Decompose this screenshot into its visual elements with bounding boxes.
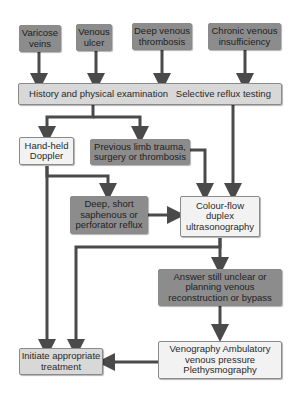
label: Hand-held Doppler: [20, 141, 73, 162]
box-varicose-veins: Varicose veins: [19, 25, 61, 52]
label: Venous ulcer: [77, 27, 111, 48]
box-tests: Venography Ambulatory venous pressure Pl…: [158, 341, 282, 379]
box-duplex: Colour-flow duplex ultrasonography: [180, 196, 260, 237]
box-dvt: Deep venous thrombosis: [132, 23, 192, 50]
label: Venography Ambulatory venous pressure Pl…: [159, 344, 281, 376]
label: Answer still unclear or planning venous …: [159, 272, 281, 304]
box-doppler: Hand-held Doppler: [19, 137, 74, 165]
label: Previous limb trauma, surgery or thrombo…: [91, 142, 189, 163]
label: Chronic venous insufficiency: [209, 26, 280, 47]
box-deep-reflux: Deep, short saphenous or perforator refl…: [70, 196, 148, 234]
label: Deep venous thrombosis: [133, 26, 191, 47]
label: Initiate appropriate treatment: [20, 351, 102, 372]
box-history: History and physical examination Selecti…: [18, 83, 282, 105]
label: Varicose veins: [20, 28, 60, 49]
box-cvi: Chronic venous insufficiency: [208, 23, 281, 50]
label: Colour-flow duplex ultrasonography: [181, 201, 259, 233]
box-venous-ulcer: Venous ulcer: [76, 24, 112, 51]
box-previous: Previous limb trauma, surgery or thrombo…: [90, 139, 190, 165]
label: History and physical examination Selecti…: [29, 89, 271, 100]
label: Deep, short saphenous or perforator refl…: [71, 199, 147, 231]
box-treatment: Initiate appropriate treatment: [19, 348, 103, 375]
box-unclear: Answer still unclear or planning venous …: [158, 269, 282, 306]
